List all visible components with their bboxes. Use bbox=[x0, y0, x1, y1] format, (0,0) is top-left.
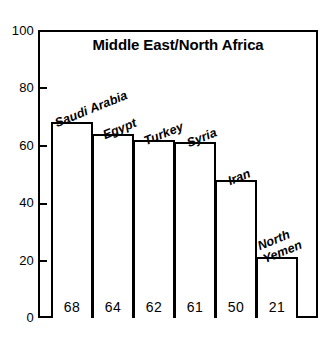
bar-egypt[interactable] bbox=[92, 134, 134, 318]
bar-saudi-arabia[interactable] bbox=[51, 122, 93, 318]
bars-layer: 68 Saudi Arabia 64 Egypt 62 Turkey 61 Sy… bbox=[0, 0, 335, 346]
bar-iran[interactable] bbox=[215, 180, 257, 318]
bar-value-saudi-arabia: 68 bbox=[51, 300, 93, 314]
bar-turkey[interactable] bbox=[133, 140, 175, 318]
bar-value-north-yemen: 21 bbox=[256, 300, 298, 314]
bar-value-turkey: 62 bbox=[133, 300, 175, 314]
bar-chart: 100 80 60 40 20 0 Middle East/North Afri… bbox=[0, 0, 335, 346]
bar-value-syria: 61 bbox=[174, 300, 216, 314]
bar-syria[interactable] bbox=[174, 142, 216, 318]
bar-value-iran: 50 bbox=[215, 300, 257, 314]
bar-value-egypt: 64 bbox=[92, 300, 134, 314]
